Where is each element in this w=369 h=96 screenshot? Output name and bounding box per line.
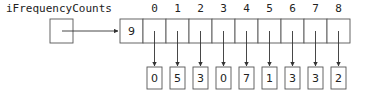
array-element: 47 xyxy=(235,2,258,89)
array-reference-diagram: iFrequencyCounts 9 001523304751637382 xyxy=(0,0,369,96)
value-label: 3 xyxy=(197,72,204,85)
value-label: 2 xyxy=(335,72,342,85)
index-label: 8 xyxy=(335,2,342,15)
index-label: 1 xyxy=(174,2,181,15)
index-label: 0 xyxy=(151,2,158,15)
index-label: 6 xyxy=(289,2,296,15)
array-element: 73 xyxy=(304,2,327,89)
index-label: 7 xyxy=(312,2,319,15)
index-label: 4 xyxy=(243,2,250,15)
array-element: 00 xyxy=(143,2,166,89)
array-element: 63 xyxy=(281,2,304,89)
value-label: 3 xyxy=(312,72,319,85)
value-label: 1 xyxy=(266,72,273,85)
value-label: 0 xyxy=(220,72,227,85)
index-label: 5 xyxy=(266,2,273,15)
variable-name-label: iFrequencyCounts xyxy=(6,2,112,15)
value-label: 7 xyxy=(243,72,250,85)
array-element: 23 xyxy=(189,2,212,89)
index-label: 3 xyxy=(220,2,227,15)
array-element: 51 xyxy=(258,2,281,89)
array-element: 15 xyxy=(166,2,189,89)
array-element: 30 xyxy=(212,2,235,89)
index-label: 2 xyxy=(197,2,204,15)
value-label: 5 xyxy=(174,72,181,85)
value-label: 3 xyxy=(289,72,296,85)
array-length-cell: 9 xyxy=(120,19,143,43)
array-cells: 001523304751637382 xyxy=(143,2,350,89)
value-label: 0 xyxy=(151,72,158,85)
array-length-value: 9 xyxy=(128,25,135,38)
array-element: 82 xyxy=(327,2,350,89)
